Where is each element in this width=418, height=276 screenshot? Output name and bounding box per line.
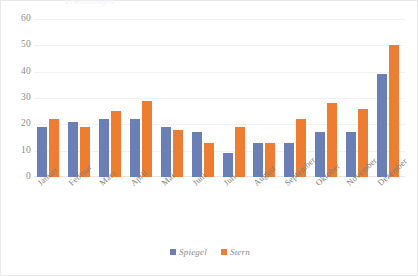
y-axis-tick-label: 20 — [5, 119, 31, 129]
legend-label: Stern — [230, 247, 250, 257]
bar-stern-mai[interactable] — [173, 130, 183, 177]
bar-stern-juni[interactable] — [204, 143, 214, 177]
bar-group — [312, 19, 343, 177]
y-axis-tick-label: 10 — [5, 146, 31, 156]
page-frame: Erwähnungen 0102030405060 JanuarFebruarM… — [0, 0, 418, 276]
bar-stern-juli[interactable] — [235, 127, 245, 177]
bar-spiegel-april[interactable] — [130, 119, 140, 177]
bar-group — [34, 19, 65, 177]
y-axis-tick-labels: 0102030405060 — [1, 19, 31, 177]
bar-spiegel-mai[interactable] — [161, 127, 171, 177]
legend-swatch-icon — [221, 249, 227, 255]
legend-entry-spiegel[interactable]: Spiegel — [170, 247, 207, 257]
bar-group — [189, 19, 220, 177]
bar-stern-dezember[interactable] — [389, 45, 399, 177]
bar-group — [127, 19, 158, 177]
bar-stern-april[interactable] — [142, 101, 152, 177]
chart-title: Erwähnungen — [65, 0, 265, 7]
bar-chart-figure: Erwähnungen 0102030405060 JanuarFebruarM… — [1, 1, 418, 276]
y-axis-tick-label: 60 — [5, 14, 31, 24]
legend-label: Spiegel — [179, 247, 207, 257]
y-axis-tick-label: 0 — [5, 172, 31, 182]
bar-stern-märz[interactable] — [111, 111, 121, 177]
legend-entry-stern[interactable]: Stern — [221, 247, 250, 257]
bar-group — [65, 19, 96, 177]
legend-swatch-icon — [170, 249, 176, 255]
x-axis-tick-labels: JanuarFebruarMärzAprilMaiJuniJuliAugustS… — [34, 177, 405, 233]
bar-group — [374, 19, 405, 177]
chart-legend: SpiegelStern — [1, 244, 418, 260]
y-axis-tick-label: 30 — [5, 93, 31, 103]
bar-group — [96, 19, 127, 177]
bar-group — [250, 19, 281, 177]
bar-group — [220, 19, 251, 177]
y-axis-tick-label: 40 — [5, 67, 31, 77]
bar-group — [343, 19, 374, 177]
plot-area — [34, 19, 405, 177]
y-axis-tick-label: 50 — [5, 40, 31, 50]
bar-group — [281, 19, 312, 177]
bar-spiegel-februar[interactable] — [68, 122, 78, 177]
bar-spiegel-märz[interactable] — [99, 119, 109, 177]
bar-group — [158, 19, 189, 177]
